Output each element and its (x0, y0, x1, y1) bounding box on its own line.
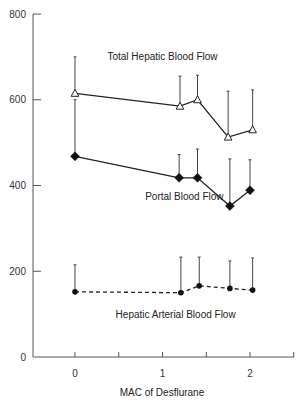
triangle-marker-icon (194, 96, 202, 103)
y-tick-label: 800 (9, 9, 26, 20)
x-tick-label: 1 (160, 368, 166, 379)
y-tick-label: 600 (9, 94, 26, 105)
y-tick-label: 200 (9, 266, 26, 277)
axes: 0200400600800012MAC of Desflurane (9, 9, 294, 399)
y-tick-label: 400 (9, 180, 26, 191)
series-label-0: Total Hepatic Blood Flow (107, 51, 218, 62)
triangle-marker-icon (249, 126, 257, 133)
circle-marker-icon (72, 289, 78, 295)
y-tick-label: 0 (20, 352, 26, 363)
circle-marker-icon (227, 286, 233, 292)
series-0 (71, 57, 256, 140)
diamond-marker-icon (71, 152, 80, 161)
triangle-marker-icon (71, 89, 79, 96)
series-line (75, 93, 253, 137)
hepatic-blood-flow-chart: 0200400600800012MAC of Desflurane Total … (0, 0, 300, 401)
series-label-1: Portal Blood Flow (145, 191, 224, 202)
x-tick-label: 0 (72, 368, 78, 379)
series-label-2: Hepatic Arterial Blood Flow (116, 309, 237, 320)
circle-marker-icon (196, 283, 202, 289)
series-layer (71, 57, 257, 296)
series-line (75, 286, 253, 293)
series-2 (72, 257, 255, 295)
diamond-marker-icon (175, 173, 184, 182)
circle-marker-icon (250, 287, 256, 293)
labels-layer: Total Hepatic Blood FlowPortal Blood Flo… (107, 51, 236, 319)
circle-marker-icon (178, 290, 184, 296)
x-tick-label: 2 (247, 368, 253, 379)
x-axis-title: MAC of Desflurane (120, 387, 205, 398)
